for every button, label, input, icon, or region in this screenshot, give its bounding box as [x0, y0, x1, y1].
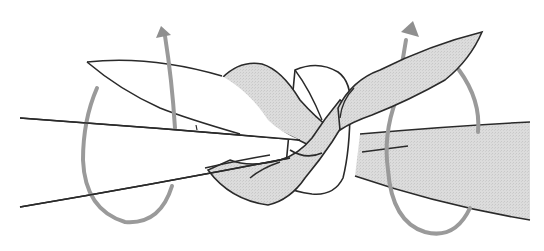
arrowhead-icon: [156, 26, 171, 38]
square-knot-diagram: [0, 0, 544, 251]
right-flap: [338, 32, 482, 130]
arrowhead-icon: [401, 21, 419, 37]
right-tail: [355, 122, 530, 220]
